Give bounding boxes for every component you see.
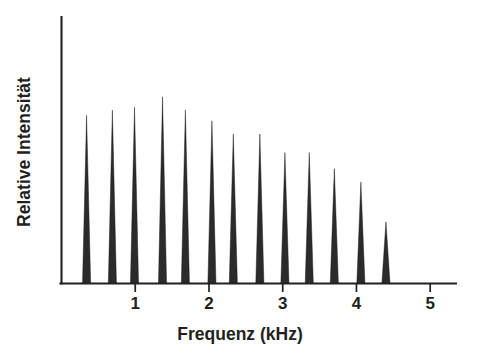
x-tick-label: 1 <box>131 294 140 313</box>
frequency-spectrum-chart: 12345 Frequenz (kHz) Relative Intensität <box>0 0 490 359</box>
spectral-peak <box>108 110 116 283</box>
spectral-peak <box>281 153 289 283</box>
x-tick-label: 5 <box>425 294 434 313</box>
spectral-peak <box>130 107 138 283</box>
spectral-peak <box>357 182 365 283</box>
x-axis-label: Frequenz (kHz) <box>177 324 302 344</box>
spectral-peak <box>382 222 390 283</box>
spectral-peak <box>83 115 91 283</box>
spectrum-figure: 12345 Frequenz (kHz) Relative Intensität <box>0 0 490 359</box>
x-tick-label: 4 <box>352 294 362 313</box>
x-tick-label: 2 <box>204 294 213 313</box>
spectral-peak <box>256 134 264 283</box>
spectral-peak <box>229 134 237 283</box>
spectral-peak <box>158 97 166 283</box>
spectral-peak <box>330 169 338 283</box>
peak-series <box>83 97 390 283</box>
y-axis-label: Relative Intensität <box>14 77 34 227</box>
x-axis-ticks: 12345 <box>131 283 435 313</box>
spectral-peak <box>208 121 216 283</box>
x-tick-label: 3 <box>278 294 287 313</box>
spectral-peak <box>181 110 189 283</box>
spectral-peak <box>305 153 313 283</box>
